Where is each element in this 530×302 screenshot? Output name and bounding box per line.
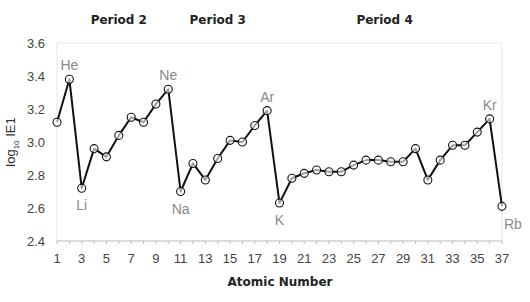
x-tick-label: 11 bbox=[174, 251, 188, 266]
data-point-marker bbox=[288, 174, 296, 182]
y-tick-label: 2.6 bbox=[27, 201, 45, 216]
data-point-marker bbox=[164, 85, 172, 93]
data-point-marker bbox=[498, 202, 506, 210]
y-tick-label: 3.4 bbox=[27, 69, 45, 84]
data-point-marker bbox=[53, 118, 61, 126]
data-point-marker bbox=[65, 75, 73, 83]
annotation-kr: Kr bbox=[483, 97, 497, 113]
x-axis-title: Atomic Number bbox=[228, 275, 333, 289]
data-point-marker bbox=[226, 136, 234, 144]
data-point-marker bbox=[486, 115, 494, 123]
x-tick-label: 17 bbox=[248, 251, 262, 266]
x-tick-label: 5 bbox=[103, 251, 110, 266]
data-series bbox=[53, 75, 506, 210]
data-point-marker bbox=[362, 156, 370, 164]
data-point-marker bbox=[337, 168, 345, 176]
data-point-marker bbox=[325, 168, 333, 176]
data-point-marker bbox=[152, 100, 160, 108]
y-tick-label: 2.8 bbox=[27, 168, 45, 183]
period-label: Period 2 bbox=[91, 13, 147, 27]
data-point-marker bbox=[461, 141, 469, 149]
data-point-marker bbox=[399, 158, 407, 166]
x-tick-label: 31 bbox=[421, 251, 435, 266]
x-tick-label: 23 bbox=[322, 251, 336, 266]
x-tick-label: 7 bbox=[128, 251, 135, 266]
annotation-k: K bbox=[275, 212, 285, 228]
data-point-marker bbox=[127, 113, 135, 121]
y-tick-label: 2.4 bbox=[27, 234, 45, 249]
x-tick-label: 35 bbox=[470, 251, 484, 266]
y-axis-title: log10 IE1 bbox=[3, 117, 21, 166]
data-point-marker bbox=[140, 118, 148, 126]
data-point-marker bbox=[436, 156, 444, 164]
y-tick-label: 3.2 bbox=[27, 102, 45, 117]
data-point-marker bbox=[374, 156, 382, 164]
x-axis: 135791113151719212325272931333537 bbox=[53, 241, 509, 266]
data-point-marker bbox=[78, 184, 86, 192]
x-tick-label: 9 bbox=[152, 251, 159, 266]
data-point-marker bbox=[189, 159, 197, 167]
annotation-na: Na bbox=[172, 201, 190, 217]
x-tick-label: 29 bbox=[396, 251, 410, 266]
data-point-marker bbox=[424, 176, 432, 184]
x-tick-label: 15 bbox=[223, 251, 237, 266]
data-point-marker bbox=[115, 131, 123, 139]
annotation-he: He bbox=[60, 57, 78, 73]
data-point-marker bbox=[201, 176, 209, 184]
x-tick-label: 19 bbox=[272, 251, 286, 266]
data-point-marker bbox=[313, 166, 321, 174]
y-axis: 2.42.62.83.03.23.43.6 bbox=[27, 36, 57, 249]
x-tick-label: 37 bbox=[495, 251, 509, 266]
annotation-ne: Ne bbox=[159, 67, 177, 83]
x-tick-label: 25 bbox=[346, 251, 360, 266]
period-label: Period 3 bbox=[190, 13, 246, 27]
ionization-energy-chart: 2.42.62.83.03.23.43.6 135791113151719212… bbox=[0, 0, 530, 302]
period-label: Period 4 bbox=[356, 13, 412, 27]
y-tick-label: 3.6 bbox=[27, 36, 45, 51]
data-point-marker bbox=[238, 138, 246, 146]
x-tick-label: 3 bbox=[78, 251, 85, 266]
annotation-li: Li bbox=[76, 197, 87, 213]
x-tick-label: 27 bbox=[371, 251, 385, 266]
x-tick-label: 33 bbox=[445, 251, 459, 266]
data-point-marker bbox=[251, 122, 259, 130]
x-tick-label: 21 bbox=[297, 251, 311, 266]
data-point-marker bbox=[90, 145, 98, 153]
x-tick-label: 13 bbox=[198, 251, 212, 266]
annotation-rb: Rb bbox=[504, 216, 522, 232]
series-line bbox=[57, 79, 502, 206]
x-tick-label: 1 bbox=[53, 251, 60, 266]
data-point-marker bbox=[387, 158, 395, 166]
data-point-marker bbox=[263, 107, 271, 115]
data-point-marker bbox=[350, 161, 358, 169]
data-point-marker bbox=[411, 145, 419, 153]
data-point-marker bbox=[177, 188, 185, 196]
data-point-marker bbox=[102, 153, 110, 161]
data-point-marker bbox=[214, 155, 222, 163]
data-point-marker bbox=[300, 169, 308, 177]
data-point-marker bbox=[449, 141, 457, 149]
annotation-ar: Ar bbox=[260, 89, 274, 105]
data-point-marker bbox=[473, 128, 481, 136]
data-point-marker bbox=[276, 199, 284, 207]
y-tick-label: 3.0 bbox=[27, 135, 45, 150]
